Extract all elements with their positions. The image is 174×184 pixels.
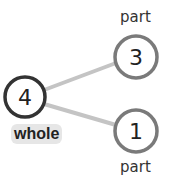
part-label-top: part [120,8,151,26]
connector-line-top [44,63,116,90]
connector-line-bottom [44,104,116,125]
whole-label: whole [11,124,62,144]
part-value-bottom: 1 [116,111,156,151]
whole-value: 4 [5,77,45,117]
number-bond-diagram: 4 3 1 whole part part [0,0,174,184]
part-label-bottom: part [120,158,151,176]
part-value-top: 3 [116,37,156,77]
